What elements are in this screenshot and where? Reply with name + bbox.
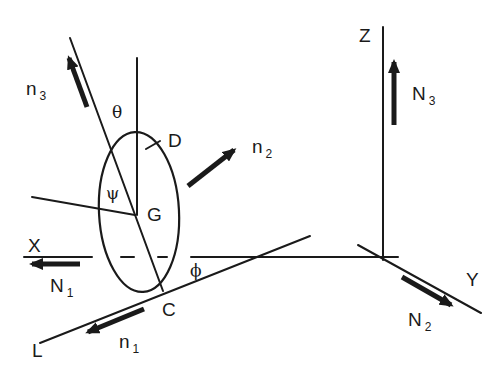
N2-arrow [402, 277, 451, 305]
disk-axis-line [70, 38, 163, 291]
label-N3: N3 [412, 84, 435, 107]
psi-line [32, 197, 135, 215]
label-z: Z [359, 26, 371, 45]
label-y: Y [466, 270, 479, 289]
label-psi: ψ [106, 185, 119, 202]
label-c: C [162, 300, 176, 319]
label-d: D [168, 131, 182, 150]
disk [95, 130, 183, 294]
label-x: X [28, 236, 41, 255]
n2-arrow [188, 150, 234, 186]
label-n2: n2 [252, 137, 272, 160]
label-phi: ϕ [190, 262, 202, 279]
label-n1: n1 [119, 332, 139, 355]
n3-arrow [69, 58, 87, 107]
y-axis [358, 245, 481, 313]
label-n3: n3 [26, 79, 46, 102]
label-g: G [147, 205, 162, 224]
label-l: L [32, 341, 43, 360]
label-theta: θ [112, 104, 122, 121]
label-N1: N1 [50, 276, 73, 299]
label-N2: N2 [408, 310, 431, 333]
